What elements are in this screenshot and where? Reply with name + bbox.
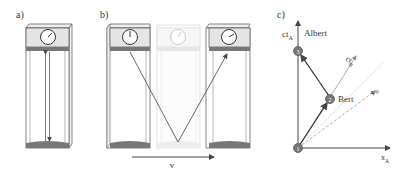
light-clock-left [107,24,150,148]
panel-c-label: c) [277,9,285,21]
panel-a: a) [16,9,72,148]
albert-label: Albert [304,28,327,38]
svg-text:2: 2 [329,97,332,103]
light-clock-diagram: a) b) [0,0,406,175]
axis-x-b-label: xB [367,85,380,98]
panel-c: c) 1 2 3 ctA Albert Bert ctB xB [277,9,390,164]
event-3: 3 [294,47,303,56]
axis-ct-b-label: ctB [343,54,357,68]
panel-a-label: a) [16,9,24,21]
light-clock-right [206,24,250,148]
worldline-1-to-2 [299,103,327,146]
svg-text:1: 1 [297,146,300,152]
velocity-label: v [170,160,175,170]
panel-b: b) [100,9,250,170]
light-clock-ghost [157,25,200,148]
bert-label: Bert [338,94,354,104]
light-clock-stationary [26,24,72,148]
axis-x-a-label: xA [381,153,389,164]
axis-ct-a-label: ctA [282,29,294,41]
event-1: 1 [294,144,303,153]
light-cone-line [298,63,383,148]
event-2: 2 [326,95,335,104]
svg-text:3: 3 [297,49,300,55]
worldline-2-to-3 [301,55,329,96]
axis-x-b [298,91,375,148]
panel-b-label: b) [100,9,108,21]
